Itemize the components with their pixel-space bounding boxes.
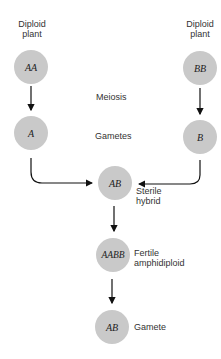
arrows [0, 0, 221, 359]
arrow-merge-icon [31, 158, 92, 183]
arrow-merge-icon [139, 160, 200, 184]
